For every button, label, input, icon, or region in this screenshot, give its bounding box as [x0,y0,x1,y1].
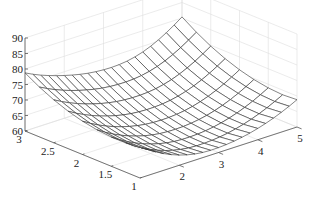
x-tick-label: 4 [258,145,264,157]
z-tick-label: 80 [12,63,24,75]
y-tick-label: 2.5 [41,145,55,157]
x-tick-label: 2 [180,170,186,182]
y-tick-label: 3 [16,133,22,145]
x-tick [219,153,224,155]
y-tick [140,177,142,178]
x-tick-label: 3 [219,158,225,170]
x-tick [258,140,263,142]
x-tick-label: 5 [297,132,303,144]
z-tick-label: 75 [12,79,24,91]
y-tick-label: 2 [74,157,80,169]
x-tick [179,165,184,167]
mesh-surface [25,17,297,155]
y-tick [83,154,85,155]
z-tick-label: 70 [12,94,24,106]
surface-plot: 6065707580859011.522.532345 [0,0,309,197]
y-tick [54,142,56,143]
z-tick-label: 65 [12,110,24,122]
z-tick-label: 90 [12,32,24,44]
x-tick [297,127,302,129]
y-tick-label: 1.5 [98,168,112,180]
y-tick [111,166,113,167]
z-tick-label: 85 [12,48,24,60]
y-tick-label: 1 [131,180,137,192]
